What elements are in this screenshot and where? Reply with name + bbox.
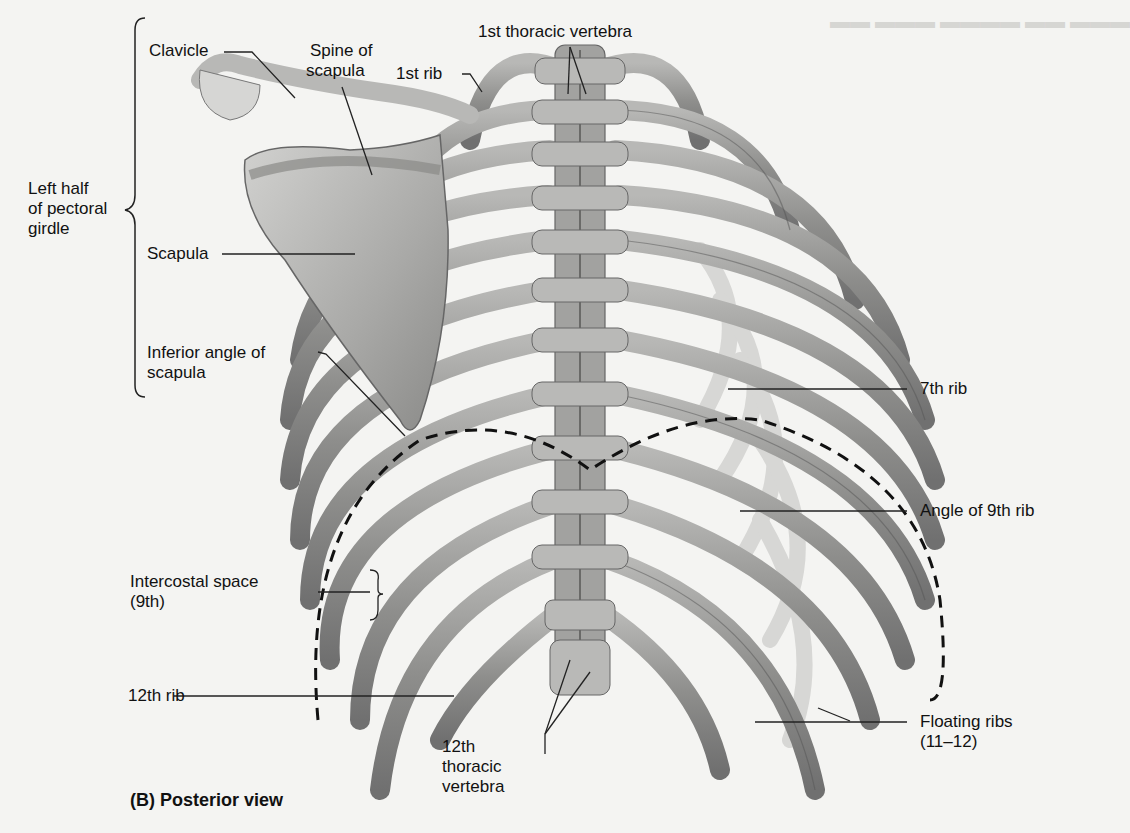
label-spine-of-scapula-line1: Spine of [310,41,372,61]
label-left-half-line3: girdle [28,219,70,239]
label-floating-ribs-line2: (11–12) [920,732,977,752]
scapula-shape [245,135,449,430]
label-spine-of-scapula-line2: scapula [306,61,365,81]
vertebral-column [532,45,628,695]
label-7th-rib: 7th rib [920,379,967,399]
label-12th-thoracic-line3: vertebra [442,777,504,797]
label-12th-rib: 12th rib [128,686,185,706]
label-inferior-angle-line2: scapula [147,363,206,383]
label-12th-thoracic-line2: thoracic [442,757,502,777]
label-left-half-line2: of pectoral [28,199,107,219]
label-1st-thoracic-vertebra: 1st thoracic vertebra [478,22,632,42]
label-floating-ribs-line1: Floating ribs [920,712,1013,732]
label-inferior-angle-line1: Inferior angle of [147,343,265,363]
pectoral-girdle-brace [125,18,145,397]
label-1st-rib: 1st rib [396,64,442,84]
label-12th-thoracic-line1: 12th [442,737,475,757]
label-left-half-line1: Left half [28,179,89,199]
figure-caption: (B) Posterior view [130,790,283,810]
label-intercostal-line1: Intercostal space [130,572,259,592]
label-angle-of-9th-rib: Angle of 9th rib [920,501,1034,521]
label-intercostal-line2: (9th) [130,592,165,612]
label-clavicle: Clavicle [149,41,209,61]
label-scapula: Scapula [147,244,208,264]
